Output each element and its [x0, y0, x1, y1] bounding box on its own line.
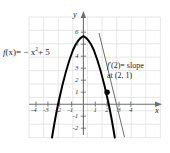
function-tail-glyph: + 5: [38, 47, 50, 57]
derivative-arg-glyph: (2): [111, 61, 120, 70]
x-tick-label-minus2: -2: [56, 107, 62, 114]
x-tick-label-1: 1: [94, 107, 98, 114]
x-axis-label: x: [155, 106, 159, 115]
y-axis-label: y: [73, 10, 77, 19]
derivative-annotation: f′(2)= slope at (2, 1): [107, 62, 144, 80]
y-tick-label-2: 2: [75, 77, 79, 84]
y-tick-label-5: 5: [75, 41, 79, 48]
y-tick-label-1: 1: [75, 89, 79, 96]
derivative-graph-figure: y x -4 -3 -2 -1 1 2 3 4 6 5 4 3 2 1 -1 -…: [0, 0, 170, 153]
derivative-annotation-line2: at (2, 1): [107, 72, 144, 80]
function-equals-glyph: = − x: [16, 47, 35, 57]
y-tick-label-minus1: -1: [73, 113, 79, 120]
y-tick-label-minus2: -2: [73, 125, 79, 132]
y-tick-label-4: 4: [75, 53, 79, 60]
x-tick-label-4: 4: [129, 107, 133, 114]
function-args-glyph: (x): [6, 47, 17, 57]
derivative-equals-glyph: = slope: [120, 61, 143, 70]
plot-canvas: [0, 0, 170, 153]
x-tick-label-3: 3: [117, 107, 121, 114]
y-tick-label-3: 3: [75, 65, 79, 72]
y-tick-label-6: 6: [75, 29, 79, 36]
x-tick-label-2: 2: [105, 107, 109, 114]
x-tick-label-minus4: -4: [31, 107, 37, 114]
tangent-point-marker: [104, 90, 109, 95]
derivative-annotation-line1: f′(2)= slope: [107, 62, 144, 70]
x-tick-label-minus3: -3: [43, 107, 49, 114]
function-equation-label: f(x)= − x2+ 5: [3, 48, 50, 57]
